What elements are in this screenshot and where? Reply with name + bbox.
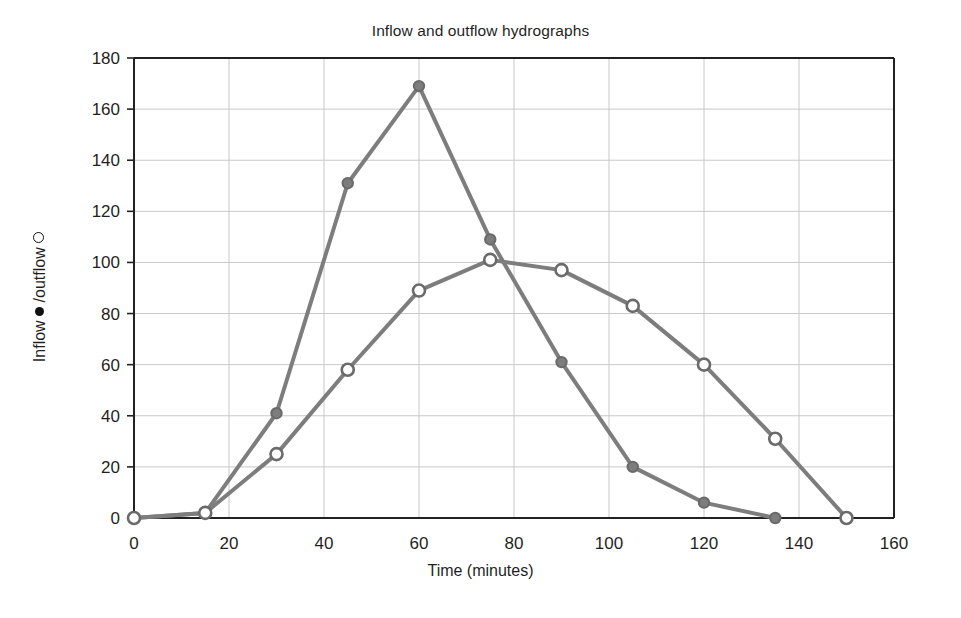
data-point-outflow	[342, 364, 354, 376]
y-tick-label: 40	[101, 407, 120, 426]
data-point-inflow	[628, 462, 638, 472]
data-point-outflow	[769, 433, 781, 445]
x-tick-label: 40	[315, 534, 334, 553]
x-tick-label: 160	[880, 534, 908, 553]
gridlines	[134, 58, 894, 518]
data-point-outflow	[484, 254, 496, 266]
y-tick-label: 120	[92, 202, 120, 221]
x-tick-label: 20	[220, 534, 239, 553]
chart-figure: Inflow and outflow hydrographs Inflow /o…	[0, 0, 961, 618]
data-point-outflow	[128, 512, 140, 524]
data-point-outflow	[698, 359, 710, 371]
tick-labels: 0204060801001201401601800204060801001201…	[92, 49, 909, 553]
y-tick-label: 0	[111, 509, 120, 528]
y-tick-label: 100	[92, 253, 120, 272]
data-point-inflow	[485, 234, 495, 244]
data-series	[128, 81, 853, 524]
data-point-outflow	[841, 512, 853, 524]
y-tick-label: 180	[92, 49, 120, 68]
data-point-inflow	[556, 357, 566, 367]
axis-ticks	[127, 58, 134, 518]
data-point-outflow	[199, 507, 211, 519]
plot-area: 0204060801001201401601800204060801001201…	[0, 0, 961, 618]
x-tick-label: 120	[690, 534, 718, 553]
y-tick-label: 20	[101, 458, 120, 477]
data-point-inflow	[271, 408, 281, 418]
data-point-inflow	[699, 497, 709, 507]
data-point-outflow	[556, 264, 568, 276]
y-tick-label: 160	[92, 100, 120, 119]
y-tick-label: 80	[101, 305, 120, 324]
data-point-inflow	[414, 81, 424, 91]
x-tick-label: 0	[129, 534, 138, 553]
data-point-outflow	[271, 448, 283, 460]
data-point-outflow	[627, 300, 639, 312]
data-point-outflow	[413, 285, 425, 297]
y-tick-label: 60	[101, 356, 120, 375]
x-tick-label: 140	[785, 534, 813, 553]
data-point-inflow	[343, 178, 353, 188]
x-tick-label: 100	[595, 534, 623, 553]
series-line-outflow	[134, 260, 847, 518]
data-point-inflow	[770, 513, 780, 523]
x-tick-label: 60	[410, 534, 429, 553]
series-line-inflow	[134, 86, 775, 518]
x-tick-label: 80	[505, 534, 524, 553]
y-tick-label: 140	[92, 151, 120, 170]
